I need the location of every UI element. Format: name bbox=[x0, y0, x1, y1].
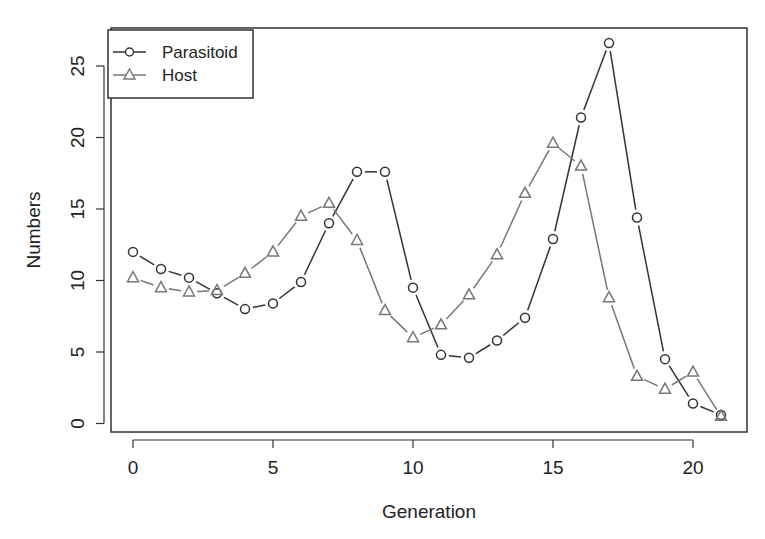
triangle-marker-icon bbox=[296, 210, 307, 220]
x-tick-label: 5 bbox=[268, 457, 279, 478]
circle-marker-icon bbox=[465, 353, 474, 362]
series-host bbox=[128, 137, 727, 420]
y-tick-label: 15 bbox=[67, 198, 88, 219]
circle-marker-icon bbox=[577, 113, 586, 122]
circle-marker-icon bbox=[409, 283, 418, 292]
circle-marker-icon bbox=[493, 336, 502, 345]
triangle-marker-icon bbox=[408, 332, 419, 342]
circle-marker-icon bbox=[633, 213, 642, 222]
legend: Parasitoid Host bbox=[108, 30, 253, 98]
triangle-marker-icon bbox=[520, 187, 531, 197]
x-axis: 05101520 bbox=[128, 440, 704, 478]
circle-marker-icon bbox=[661, 355, 670, 364]
x-tick-label: 0 bbox=[128, 457, 139, 478]
triangle-marker-icon bbox=[660, 383, 671, 393]
x-tick-label: 15 bbox=[542, 457, 563, 478]
circle-marker-icon bbox=[437, 350, 446, 359]
triangle-marker-icon bbox=[688, 366, 699, 376]
circle-marker-icon bbox=[325, 219, 334, 228]
circle-marker-icon bbox=[185, 273, 194, 282]
y-tick-label: 10 bbox=[67, 270, 88, 291]
y-tick-label: 20 bbox=[67, 127, 88, 148]
triangle-marker-icon bbox=[548, 137, 559, 147]
legend-label-host: Host bbox=[162, 66, 197, 85]
circle-marker-icon bbox=[549, 235, 558, 244]
circle-marker-icon bbox=[605, 39, 614, 48]
y-axis-title: Numbers bbox=[23, 191, 44, 268]
circle-marker-icon bbox=[126, 48, 134, 56]
circle-marker-icon bbox=[521, 313, 530, 322]
triangle-marker-icon bbox=[156, 282, 167, 292]
triangle-marker-icon bbox=[352, 234, 363, 244]
x-tick-label: 10 bbox=[402, 457, 423, 478]
circle-marker-icon bbox=[129, 247, 138, 256]
triangle-marker-icon bbox=[324, 197, 335, 207]
y-axis: 0510152025 bbox=[67, 55, 104, 428]
triangle-marker-icon bbox=[632, 370, 643, 380]
circle-marker-icon bbox=[269, 299, 278, 308]
x-axis-title: Generation bbox=[382, 501, 476, 522]
triangle-marker-icon bbox=[240, 267, 251, 277]
circle-marker-icon bbox=[241, 305, 250, 314]
circle-marker-icon bbox=[689, 399, 698, 408]
circle-marker-icon bbox=[297, 277, 306, 286]
circle-marker-icon bbox=[157, 265, 166, 274]
triangle-marker-icon bbox=[268, 246, 279, 256]
legend-box bbox=[108, 30, 253, 98]
line-chart: 05101520 0510152025 Generation Numbers P… bbox=[0, 0, 765, 539]
triangle-marker-icon bbox=[436, 319, 447, 329]
triangle-marker-icon bbox=[184, 286, 195, 296]
x-tick-label: 20 bbox=[682, 457, 703, 478]
circle-marker-icon bbox=[381, 167, 390, 176]
triangle-marker-icon bbox=[128, 272, 139, 282]
y-tick-label: 25 bbox=[67, 55, 88, 76]
triangle-marker-icon bbox=[604, 292, 615, 302]
circle-marker-icon bbox=[353, 167, 362, 176]
triangle-marker-icon bbox=[380, 305, 391, 315]
triangle-marker-icon bbox=[576, 160, 587, 170]
triangle-marker-icon bbox=[464, 289, 475, 299]
legend-label-parasitoid: Parasitoid bbox=[162, 43, 238, 62]
y-tick-label: 5 bbox=[67, 347, 88, 358]
y-tick-label: 0 bbox=[67, 418, 88, 429]
triangle-marker-icon bbox=[492, 249, 503, 259]
